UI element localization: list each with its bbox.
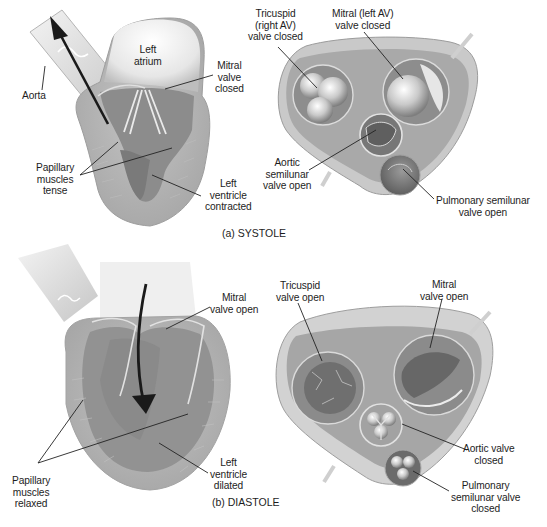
label-line: muscles [36,174,74,186]
label-mitral-valve-open: Mitralvalve open [210,292,258,315]
label-aorta: Aorta [22,90,46,102]
systole-caption: (a) SYSTOLE [222,227,286,239]
label-line: Pulmonary [451,480,520,492]
label-line: Mitral [420,279,468,291]
label-line: atrium [134,56,162,68]
label-line: contracted [205,201,252,213]
label-line: valve closed [248,31,303,43]
label-line: valve closed [332,20,394,32]
label-mitral-valve-open-2: Mitralvalve open [420,279,468,302]
label-line: Mitral (left AV) [332,8,394,20]
label-tricuspid-valve-open: Tricuspidvalve open [276,280,324,303]
label-line: dilated [210,480,247,492]
label-papillary-muscles-tense: Papillarymusclestense [36,162,74,197]
label-line: valve open [436,207,530,219]
diastole-caption: (b) DIASTOLE [212,496,280,508]
label-line: ventricle [210,469,247,481]
label-left-ventricle-contracted: Leftventriclecontracted [205,178,252,213]
label-line: valve open [420,291,468,303]
label-line: Papillary [12,475,50,487]
diastole-heart-section [18,244,230,490]
heart-valves-figure: (a) SYSTOLE (b) DIASTOLE AortaLeftatrium… [0,0,547,527]
label-line: Mitral [215,60,244,72]
label-line: closed [451,503,520,515]
label-line: Left [134,44,162,56]
label-line: Pulmonary semilunar [436,195,530,207]
label-pulmonary-semilunar-closed: Pulmonarysemilunar valveclosed [451,480,520,515]
label-left-atrium: Leftatrium [134,44,162,67]
leader-line-pulmonary-semilunar-closed [413,471,449,491]
leader-line-aorta [42,66,45,90]
label-pulmonary-semilunar-open: Pulmonary semilunarvalve open [436,195,530,218]
label-line: Aortic [263,157,311,169]
diastole-valve-plane [276,306,493,486]
label-papillary-muscles-relaxed: Papillarymusclesrelaxed [12,475,50,510]
label-line: closed [463,455,514,467]
label-line: valve [215,72,244,84]
label-line: Aorta [22,90,46,102]
label-line: valve open [276,292,324,304]
label-mitral-valve-closed: Mitralvalveclosed [215,60,244,95]
label-tricuspid-right-av-closed: Tricuspid(right AV)valve closed [248,8,303,43]
label-line: closed [215,83,244,95]
label-line: (right AV) [248,20,303,32]
label-line: Mitral [210,292,258,304]
label-line: ventricle [205,190,252,202]
label-mitral-left-av-closed: Mitral (left AV)valve closed [332,8,394,31]
label-line: semilunar [263,169,311,181]
label-line: valve open [210,304,258,316]
label-aortic-semilunar-open: Aorticsemilunarvalve open [263,157,311,192]
label-line: Tricuspid [248,8,303,20]
label-line: Tricuspid [276,280,324,292]
label-line: Left [205,178,252,190]
label-line: semilunar valve [451,492,520,504]
label-line: Left [210,457,247,469]
label-line: relaxed [12,498,50,510]
label-line: valve open [263,180,311,192]
label-line: Aortic valve [463,443,514,455]
label-line: tense [36,185,74,197]
label-line: muscles [12,487,50,499]
label-line: Papillary [36,162,74,174]
label-left-ventricle-dilated: Leftventricledilated [210,457,247,492]
label-aortic-valve-closed: Aortic valveclosed [463,443,514,466]
